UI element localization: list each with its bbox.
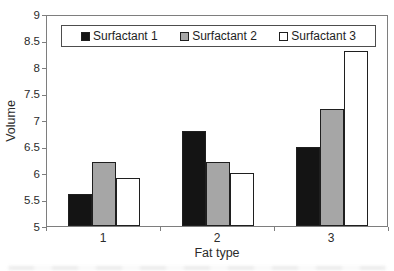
bar-surfactant-3-fat-2 (230, 173, 254, 226)
x-tick-mark (274, 227, 275, 231)
x-axis-title: Fat type (46, 246, 388, 260)
legend-item-surfactant-1: Surfactant 1 (81, 29, 158, 43)
bar-surfactant-2-fat-3 (320, 109, 344, 226)
scan-artifact (8, 266, 386, 270)
y-tick-label-6: 6 (0, 168, 40, 181)
x-category-label-2: 2 (197, 231, 237, 245)
y-tick-label-9: 9 (0, 9, 40, 22)
legend-item-surfactant-3: Surfactant 3 (279, 29, 356, 43)
y-tick-mark (42, 148, 46, 149)
y-tick-mark (42, 121, 46, 122)
bar-surfactant-1-fat-2 (182, 131, 206, 226)
legend-label-surfactant-3: Surfactant 3 (291, 29, 356, 43)
bar-surfactant-3-fat-3 (344, 51, 368, 226)
legend-label-surfactant-2: Surfactant 2 (192, 29, 257, 43)
bar-surfactant-2-fat-1 (92, 162, 116, 226)
y-tick-label-7.5: 7.5 (0, 88, 40, 101)
chart-figure: Volume Surfactant 1 Surfactant 2 Surfact… (0, 0, 394, 271)
legend-item-surfactant-2: Surfactant 2 (180, 29, 257, 43)
x-category-label-3: 3 (311, 231, 351, 245)
x-tick-mark (160, 227, 161, 231)
y-tick-mark (42, 15, 46, 16)
legend: Surfactant 1 Surfactant 2 Surfactant 3 (61, 25, 376, 47)
y-tick-label-5.5: 5.5 (0, 194, 40, 207)
x-category-label-1: 1 (83, 231, 123, 245)
legend-swatch-surfactant-1 (81, 32, 90, 41)
y-tick-label-8: 8 (0, 62, 40, 75)
x-tick-mark (388, 227, 389, 231)
bar-surfactant-1-fat-3 (296, 147, 320, 227)
y-tick-label-6.5: 6.5 (0, 141, 40, 154)
y-tick-mark (42, 68, 46, 69)
legend-swatch-surfactant-2 (180, 32, 189, 41)
y-tick-mark (42, 201, 46, 202)
bar-surfactant-3-fat-1 (116, 178, 140, 226)
y-tick-label-5: 5 (0, 221, 40, 234)
bar-surfactant-2-fat-2 (206, 162, 230, 226)
legend-swatch-surfactant-3 (279, 32, 288, 41)
y-tick-label-7: 7 (0, 115, 40, 128)
y-tick-mark (42, 95, 46, 96)
bar-surfactant-1-fat-1 (68, 194, 92, 226)
y-tick-mark (42, 42, 46, 43)
legend-label-surfactant-1: Surfactant 1 (93, 29, 158, 43)
y-tick-label-8.5: 8.5 (0, 35, 40, 48)
y-tick-mark (42, 174, 46, 175)
x-tick-mark (46, 227, 47, 231)
